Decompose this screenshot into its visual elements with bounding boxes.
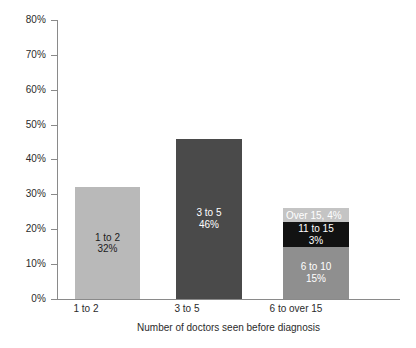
x-axis-label-3-to-5: 3 to 5 bbox=[148, 303, 226, 315]
y-axis-label-70: 70% bbox=[2, 50, 46, 60]
x-axis-line bbox=[57, 299, 400, 300]
bar-segment-label-value: 15% bbox=[306, 273, 326, 285]
bar-chart: 80% 70% 60% 50% 40% 30% 20% 10% 0% 1 to … bbox=[0, 0, 416, 348]
bar-3-to-5[interactable]: 3 to 5 46% bbox=[176, 139, 242, 299]
bar-segment-11-to-15[interactable]: 11 to 15 3% bbox=[283, 222, 349, 246]
y-axis-label-20: 20% bbox=[2, 224, 46, 234]
bar-segment-3-to-5[interactable]: 3 to 5 46% bbox=[176, 139, 242, 299]
bar-segment-label-name: 3 to 5 bbox=[196, 207, 221, 219]
y-axis-label-0: 0% bbox=[2, 294, 46, 304]
x-axis-label-1-to-2: 1 to 2 bbox=[47, 303, 125, 315]
bar-segment-label-name: 6 to 10 bbox=[301, 261, 332, 273]
y-axis-label-80: 80% bbox=[2, 15, 46, 25]
x-axis-title: Number of doctors seen before diagnosis bbox=[57, 322, 400, 333]
plot-area: 1 to 2 32% 3 to 5 46% 6 to 10 15% bbox=[57, 20, 400, 299]
bar-segment-6-to-10[interactable]: 6 to 10 15% bbox=[283, 247, 349, 299]
bar-segment-label-value: 46% bbox=[199, 219, 219, 231]
bar-segment-1-to-2[interactable]: 1 to 2 32% bbox=[75, 187, 140, 299]
y-axis-label-30: 30% bbox=[2, 189, 46, 199]
bar-segment-label-name: 11 to 15 bbox=[298, 223, 333, 235]
bar-segment-label-value: 32% bbox=[97, 243, 117, 255]
bar-1-to-2[interactable]: 1 to 2 32% bbox=[75, 187, 140, 299]
y-axis-label-40: 40% bbox=[2, 154, 46, 164]
y-axis-label-50: 50% bbox=[2, 120, 46, 130]
bar-segment-label-name: 1 to 2 bbox=[95, 232, 120, 244]
y-axis-label-60: 60% bbox=[2, 85, 46, 95]
x-axis-label-6-to-over-15: 6 to over 15 bbox=[250, 303, 342, 315]
bar-segment-over-15[interactable]: Over 15, 4% bbox=[283, 208, 349, 222]
y-axis-label-10: 10% bbox=[2, 259, 46, 269]
bar-segment-label-value: 3% bbox=[309, 235, 323, 247]
y-axis-tick-0 bbox=[51, 299, 57, 300]
bar-segment-label-name: Over 15, 4% bbox=[286, 210, 342, 222]
bar-6-to-over-15[interactable]: 6 to 10 15% 11 to 15 3% Over 15, 4% bbox=[283, 222, 349, 299]
